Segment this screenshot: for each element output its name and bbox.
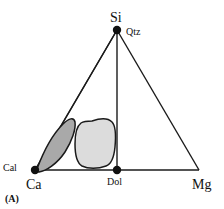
composition-fields (36, 119, 116, 172)
mineral-label-qtz: Qtz (126, 27, 140, 37)
ternary-phase-diagram-figure: Si Qtz Cal Ca Dol Mg (A) (0, 0, 224, 209)
vertex-label-ca: Ca (26, 178, 42, 192)
mineral-label-cal: Cal (3, 163, 17, 173)
marker-ca-cal (31, 166, 39, 174)
vertex-label-si: Si (110, 11, 122, 25)
vertex-label-mg: Mg (192, 178, 211, 192)
field-right-blob (75, 119, 116, 168)
edge-si-mg (117, 30, 199, 170)
mineral-label-dol: Dol (107, 177, 122, 187)
marker-si-qtz (113, 26, 121, 34)
panel-label: (A) (5, 194, 19, 204)
marker-dol (113, 166, 121, 174)
field-left-lens (36, 119, 75, 172)
